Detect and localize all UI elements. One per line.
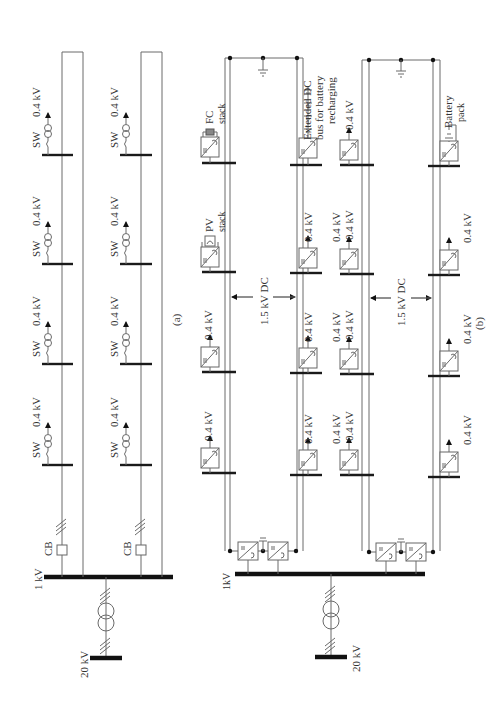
switch-label: SW bbox=[30, 131, 42, 148]
load-voltage-label: 0.4 kV bbox=[330, 414, 342, 444]
load-voltage-label: 0.4 kV bbox=[461, 415, 473, 445]
switch-label: SW bbox=[108, 441, 120, 458]
load-voltage-label: 0.4 kV bbox=[343, 100, 355, 130]
load-voltage-label: 0.4 kV bbox=[343, 210, 355, 240]
switch-label: SW bbox=[108, 131, 120, 148]
fc-label: FC bbox=[203, 111, 215, 124]
load-voltage-label: 0.4 kV bbox=[461, 314, 473, 344]
voltage-label: 0.4 kV bbox=[30, 296, 42, 326]
ext-bus-label-1: Extended DC bbox=[301, 80, 313, 140]
switch-label: SW bbox=[30, 340, 42, 357]
ext-bus-label-2: bus for battery bbox=[313, 75, 325, 140]
breaker-label: CB bbox=[121, 541, 133, 556]
pv-label: PV bbox=[203, 218, 215, 232]
lv-bus-label: 1kV bbox=[221, 572, 232, 590]
voltage-label: 0.4 kV bbox=[30, 196, 42, 226]
voltage-label: 0.4 kV bbox=[108, 196, 120, 226]
panel-a-label: (a) bbox=[170, 313, 183, 326]
power-distribution-diagram: SW 0.4 kV SW 0.4 kV SW 0.4 kV SW 0.4 kV … bbox=[0, 0, 499, 722]
feeder-2-loads bbox=[120, 155, 152, 465]
load-voltage-label: 0.4 kV bbox=[461, 213, 473, 243]
dc-link-label: 1.5 kV DC bbox=[395, 278, 407, 326]
fc-sub-label: stack bbox=[216, 103, 227, 124]
voltage-label: 0.4 kV bbox=[108, 87, 120, 117]
switch-label: SW bbox=[30, 441, 42, 458]
circuit-breaker-2 bbox=[136, 545, 146, 555]
voltage-label: 0.4 kV bbox=[108, 296, 120, 326]
panel-b: FC stack PV stack 0.4 kV 0.4 kV 1.5 kV D… bbox=[201, 56, 486, 672]
voltage-label: 0.4 kV bbox=[30, 397, 42, 427]
switch-label: SW bbox=[30, 240, 42, 257]
battery-sub-label: pack bbox=[455, 103, 466, 122]
panel-b-label: (b) bbox=[473, 317, 486, 330]
panel-a: SW 0.4 kV SW 0.4 kV SW 0.4 kV SW 0.4 kV … bbox=[30, 52, 183, 678]
pv-sub-label: stack bbox=[216, 211, 227, 232]
breaker-label: CB bbox=[42, 541, 54, 556]
feeder-2-loop bbox=[141, 52, 162, 577]
feeder-1-loop bbox=[62, 52, 83, 577]
voltage-label: 0.4 kV bbox=[30, 87, 42, 117]
load-voltage-label: 0.4 kV bbox=[343, 310, 355, 340]
circuit-breaker-1 bbox=[57, 545, 67, 555]
battery-label: Battery bbox=[442, 95, 454, 128]
hv-bus-label: 20 kV bbox=[78, 651, 90, 678]
load-voltage-label: 0.4 kV bbox=[343, 411, 355, 441]
switch-label: SW bbox=[108, 340, 120, 357]
lv-bus-label: 1 kV bbox=[32, 568, 44, 590]
ext-bus-label-3: recharging bbox=[325, 77, 337, 124]
hv-bus-label: 20 kV bbox=[350, 645, 362, 672]
load-voltage-label: 0.4 kV bbox=[330, 212, 342, 242]
voltage-label: 0.4 kV bbox=[108, 397, 120, 427]
load-voltage-label: 0.4 kV bbox=[330, 312, 342, 342]
feeder-1-loads bbox=[42, 155, 73, 465]
load-voltage-label: 0.4 kV bbox=[302, 212, 314, 242]
switch-label: SW bbox=[108, 240, 120, 257]
load-voltage-label: 0.4 kV bbox=[202, 310, 214, 340]
load-voltage-label: 0.4 kV bbox=[302, 312, 314, 342]
load-voltage-label: 0.4 kV bbox=[202, 411, 214, 441]
dc-link-label: 1.5 kV DC bbox=[258, 277, 270, 325]
load-voltage-label: 0.4 kV bbox=[302, 414, 314, 444]
